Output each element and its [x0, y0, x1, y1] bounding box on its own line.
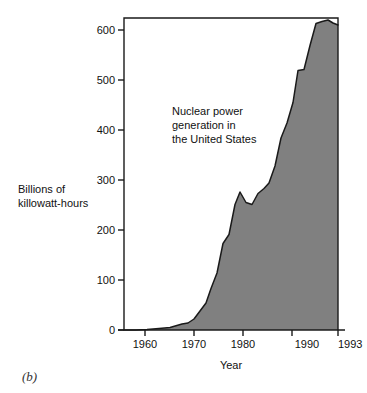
y-tick-label-400: 400: [97, 124, 115, 136]
x-axis-tick-labels: 1960 1970 1980 1990 1993: [133, 338, 363, 350]
y-axis-ticks: [118, 30, 124, 330]
annotation-line-1: Nuclear power: [172, 105, 243, 117]
chart-svg: 0 100 200 300 400 500 600 1960 1970 1980…: [0, 0, 367, 393]
y-tick-label-100: 100: [97, 274, 115, 286]
x-tick-label-1980: 1980: [231, 338, 255, 350]
x-tick-label-1993: 1993: [338, 338, 362, 350]
x-axis-title: Year: [220, 359, 243, 371]
y-tick-label-600: 600: [97, 24, 115, 36]
y-axis-title-line-1: Billions of: [18, 183, 66, 195]
x-tick-label-1960: 1960: [133, 338, 157, 350]
y-axis-title-line-2: killowatt-hours: [18, 197, 89, 209]
y-tick-label-200: 200: [97, 224, 115, 236]
y-axis-title: Billions of killowatt-hours: [18, 183, 89, 209]
y-axis-tick-labels: 0 100 200 300 400 500 600: [97, 24, 115, 336]
annotation-line-3: the United States: [172, 133, 257, 145]
y-tick-label-500: 500: [97, 74, 115, 86]
x-tick-label-1990: 1990: [295, 338, 319, 350]
x-axis-ticks: [145, 330, 338, 336]
annotation-line-2: generation in: [172, 119, 236, 131]
x-tick-label-1970: 1970: [182, 338, 206, 350]
figure-panel: 0 100 200 300 400 500 600 1960 1970 1980…: [0, 0, 367, 393]
y-tick-label-0: 0: [109, 324, 115, 336]
panel-label: (b): [22, 369, 37, 384]
y-tick-label-300: 300: [97, 174, 115, 186]
